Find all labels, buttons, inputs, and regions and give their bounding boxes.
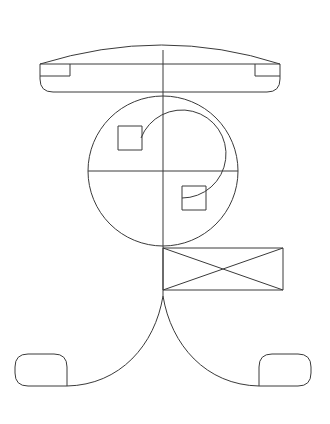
crossed-rectangle-group <box>163 248 283 290</box>
right-leg-curve <box>163 296 259 386</box>
right-foot <box>259 354 311 386</box>
upper-square <box>118 126 142 150</box>
top-bar-group <box>40 45 280 92</box>
top-bar-outline <box>40 45 280 92</box>
line-drawing-figure <box>0 0 330 424</box>
left-leg-curve <box>67 296 163 386</box>
top-bar-right-notch <box>255 64 280 76</box>
left-foot <box>15 354 67 386</box>
inner-arc <box>141 110 226 198</box>
top-bar-left-notch <box>40 64 70 76</box>
legs-group <box>15 296 311 386</box>
